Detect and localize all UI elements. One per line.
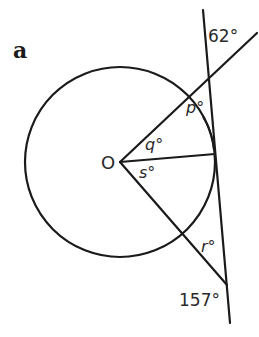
- tangent-line: [203, 10, 230, 323]
- radius-to-tangent-point: [120, 154, 215, 162]
- angle-s-label: s°: [139, 163, 155, 182]
- center-label-o: O: [101, 152, 115, 173]
- angle-q-label: q°: [145, 135, 163, 154]
- part-label: a: [13, 37, 27, 63]
- angle-r-label: r°: [201, 237, 216, 256]
- circle-tangent-diagram: a O 62° 157° p° q° s° r°: [0, 0, 259, 337]
- angle-157-label: 157°: [179, 290, 220, 310]
- lower-line: [120, 162, 227, 285]
- angle-62-label: 62°: [208, 26, 238, 46]
- angle-p-label: p°: [185, 98, 204, 117]
